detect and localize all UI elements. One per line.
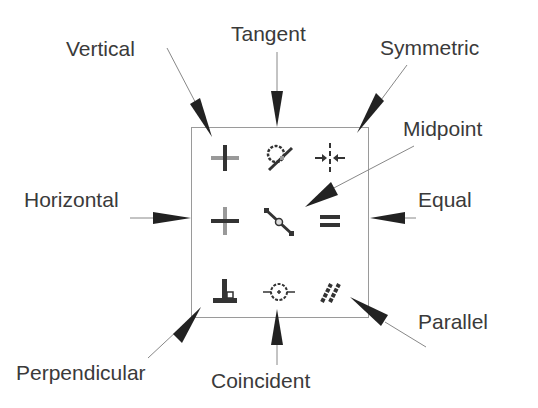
- perpendicular-icon[interactable]: [208, 275, 242, 309]
- symmetric-icon[interactable]: [313, 141, 347, 175]
- coincident-icon[interactable]: [262, 275, 296, 309]
- parallel-icon[interactable]: [313, 275, 347, 309]
- vertical-icon[interactable]: [208, 141, 242, 175]
- horizontal-icon[interactable]: [208, 204, 242, 238]
- tangent-icon[interactable]: [262, 141, 296, 175]
- equal-icon[interactable]: [313, 204, 347, 238]
- midpoint-icon[interactable]: [262, 204, 296, 238]
